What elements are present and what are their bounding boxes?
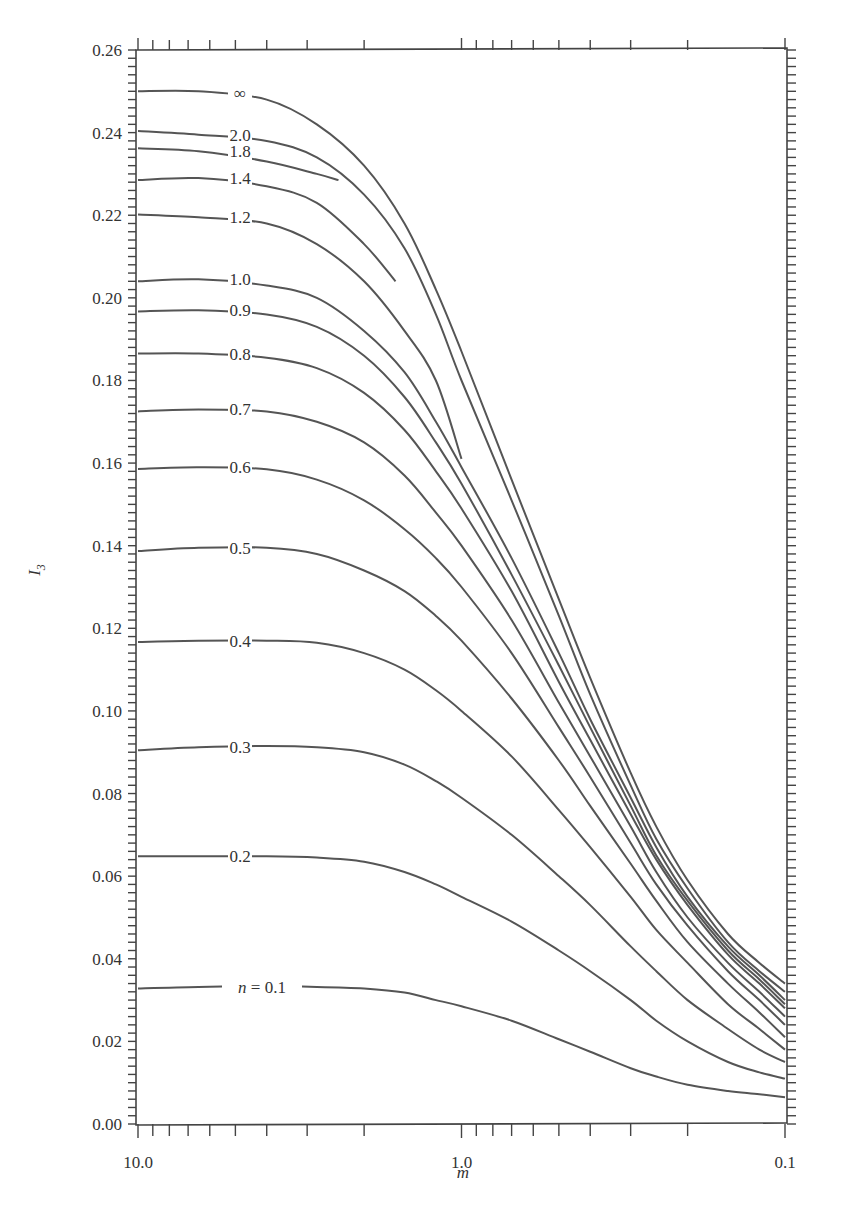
y-tick-label: 0.24 xyxy=(92,124,122,143)
curve-label: 0.7 xyxy=(229,400,251,419)
curve-label: 1.0 xyxy=(229,270,250,289)
y-axis-title-subscript: 3 xyxy=(34,564,48,571)
y-tick-label: 0.20 xyxy=(92,289,122,308)
y-tick-label: 0.10 xyxy=(92,702,122,721)
curve-n-0.8 xyxy=(138,353,785,1008)
y-tick-label: 0.06 xyxy=(92,867,122,886)
curve-label: 0.9 xyxy=(229,301,250,320)
curve-label: 0.3 xyxy=(229,738,250,757)
curve-label: 1.4 xyxy=(229,169,251,188)
y-tick-label: 0.02 xyxy=(92,1032,122,1051)
curve-label: 0.6 xyxy=(229,458,250,477)
curve-n-1.2 xyxy=(138,214,462,459)
chart-canvas: 0.000.020.040.060.080.100.120.140.160.18… xyxy=(0,0,843,1218)
curve-label: 0.4 xyxy=(229,632,251,651)
curves xyxy=(138,91,785,1098)
y-tick-label: 0.26 xyxy=(92,41,122,60)
x-axis-title: m xyxy=(457,1163,469,1182)
curve-label: 1.2 xyxy=(229,208,250,227)
x-tick-label: 10.0 xyxy=(123,1153,153,1172)
y-tick-label: 0.22 xyxy=(92,206,122,225)
y-tick-label: 0.08 xyxy=(92,785,122,804)
curve-label: 0.5 xyxy=(229,539,250,558)
curve-n-1.4 xyxy=(138,178,396,281)
y-axis-title: I3 xyxy=(25,564,48,577)
curve-label: 1.8 xyxy=(229,142,250,161)
y-tick-label: 0.00 xyxy=(92,1115,122,1134)
curve-n-0.4 xyxy=(138,641,785,1050)
y-tick-label: 0.16 xyxy=(92,454,122,473)
curve-label: 0.2 xyxy=(229,847,250,866)
curve-label: ∞ xyxy=(234,84,246,103)
y-tick-label: 0.18 xyxy=(92,371,122,390)
y-tick-label: 0.04 xyxy=(92,950,122,969)
y-tick-label: 0.14 xyxy=(92,537,122,556)
x-tick-label: 0.1 xyxy=(774,1153,795,1172)
curve-label: n = 0.1 xyxy=(238,978,286,997)
y-tick-label: 0.12 xyxy=(92,619,122,638)
curve-label: 0.8 xyxy=(229,345,250,364)
